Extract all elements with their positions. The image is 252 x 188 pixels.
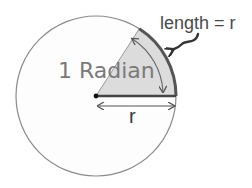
radius-label: r <box>129 105 136 127</box>
radian-diagram-svg: 1 Radian length = r r <box>0 0 252 188</box>
center-dot <box>94 94 99 99</box>
radian-diagram: 1 Radian length = r r <box>0 0 252 188</box>
angle-label: 1 Radian <box>58 58 155 83</box>
curly-pointer-arrow-icon <box>172 34 198 50</box>
arc-length-label: length = r <box>160 13 236 33</box>
